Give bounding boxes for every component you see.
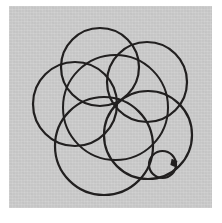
- circle-sketch-drawing: [0, 0, 222, 223]
- screenshot-canvas: [0, 0, 222, 223]
- upper-right-petal-circle: [107, 42, 187, 122]
- top-petal-circle: [61, 28, 139, 106]
